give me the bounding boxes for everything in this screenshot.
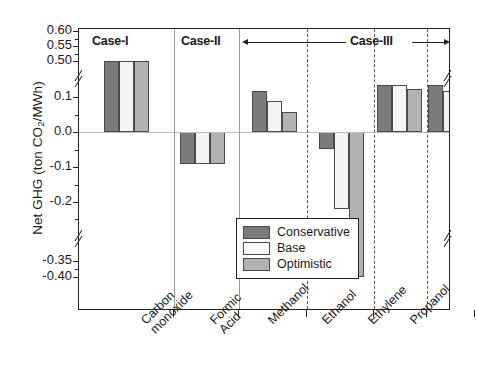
bar-methanol-base xyxy=(392,85,407,132)
bar-case-ii-conservative xyxy=(180,132,195,164)
y-tick-7 xyxy=(73,261,79,262)
group-separator-solid-0 xyxy=(174,29,175,309)
y-tick-label-7: -0.35 xyxy=(12,253,72,266)
case-label-case-ii: Case-II xyxy=(181,34,221,48)
legend-swatch-optimistic xyxy=(243,258,270,271)
case-iii-arrow-line xyxy=(412,42,444,43)
chart-figure: Net GHG (ton CO2/MWh) 0.600.550.500.10.0… xyxy=(0,0,477,381)
legend-item-conservative: Conservative xyxy=(243,225,350,240)
y-minor-tick-1 xyxy=(75,54,79,55)
bar-case-i-base xyxy=(119,61,134,132)
y-axis-title: Net GHG (ton CO2/MWh) xyxy=(30,48,46,268)
y-minor-tick-3 xyxy=(75,150,79,151)
y-tick-label-3: 0.1 xyxy=(12,89,72,102)
case-iii-arrow-line xyxy=(248,42,346,43)
axis-break-mark xyxy=(72,232,89,246)
legend-swatch-conservative xyxy=(243,226,270,239)
y-axis-title-pre: Net GHG (ton CO xyxy=(30,127,45,235)
bar-carbon-monoxide-base xyxy=(267,101,282,132)
y-tick-4 xyxy=(73,132,79,133)
case-iii-arrowhead-right xyxy=(444,39,450,45)
bar-formic-acid-base xyxy=(334,132,349,209)
bar-case-i-optimistic xyxy=(134,61,149,132)
bar-case-ii-optimistic xyxy=(210,132,225,164)
bar-case-i-conservative xyxy=(104,61,119,132)
bar-methanol-optimistic xyxy=(407,89,422,132)
case-label-case-i: Case-I xyxy=(92,34,128,48)
group-separator-dashed-2 xyxy=(427,29,428,309)
x-tick-5 xyxy=(474,310,475,317)
legend: Conservative Base Optimistic xyxy=(236,218,359,279)
legend-label-base: Base xyxy=(277,242,306,255)
y-tick-label-1: 0.55 xyxy=(12,38,72,51)
bar-carbon-monoxide-optimistic xyxy=(282,112,297,132)
y-minor-tick-5 xyxy=(75,219,79,220)
legend-swatch-base xyxy=(243,242,270,255)
y-tick-3 xyxy=(73,97,79,98)
legend-item-optimistic: Optimistic xyxy=(243,257,350,272)
y-tick-2 xyxy=(73,61,79,62)
y-minor-tick-2 xyxy=(75,115,79,116)
y-minor-tick-0 xyxy=(75,39,79,40)
y-tick-0 xyxy=(73,31,79,32)
case-label-case-iii: Case-III xyxy=(350,34,393,48)
x-tick-2 xyxy=(306,310,307,317)
y-tick-1 xyxy=(73,46,79,47)
group-separator-dashed-1 xyxy=(374,29,375,309)
legend-item-base: Base xyxy=(243,241,350,256)
bar-formic-acid-conservative xyxy=(319,132,334,149)
y-tick-label-0: 0.60 xyxy=(12,23,72,36)
y-tick-label-6: -0.2 xyxy=(12,194,72,207)
y-tick-6 xyxy=(73,202,79,203)
y-tick-label-8: -0.40 xyxy=(12,269,72,282)
y-minor-tick-4 xyxy=(75,185,79,186)
bar-ethanol-base xyxy=(443,91,450,132)
legend-label-conservative: Conservative xyxy=(277,226,350,239)
axis-break-mark xyxy=(441,72,458,86)
y-tick-label-5: -0.1 xyxy=(12,159,72,172)
bar-ethanol-conservative xyxy=(428,85,443,132)
bar-case-ii-base xyxy=(195,132,210,164)
y-tick-5 xyxy=(73,167,79,168)
axis-break-mark xyxy=(72,72,89,86)
axis-break-mark xyxy=(441,232,458,246)
y-minor-tick-6 xyxy=(75,269,79,270)
bar-methanol-conservative xyxy=(377,85,392,132)
case-iii-arrowhead-left xyxy=(242,39,248,45)
bar-carbon-monoxide-conservative xyxy=(252,91,267,132)
y-tick-8 xyxy=(73,277,79,278)
legend-label-optimistic: Optimistic xyxy=(277,258,332,271)
y-tick-label-4: 0.0 xyxy=(12,124,72,137)
y-tick-label-2: 0.50 xyxy=(12,53,72,66)
zero-line xyxy=(79,132,449,133)
